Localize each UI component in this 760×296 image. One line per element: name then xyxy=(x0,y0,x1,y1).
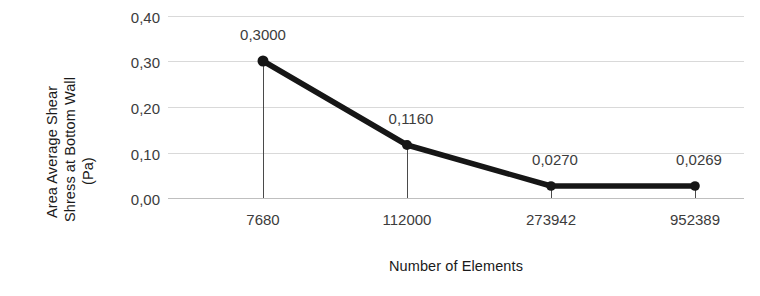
data-label-1: 0,3000 xyxy=(240,27,286,42)
data-label-4: 0,0269 xyxy=(676,152,722,167)
y-tick-label-000: 0,00 xyxy=(108,192,160,207)
y-tick-label-040: 0,40 xyxy=(108,10,160,25)
y-tick-label-010: 0,10 xyxy=(108,147,160,162)
y-axis-title-line-3: (Pa) xyxy=(80,157,96,185)
data-point-marker-1 xyxy=(258,56,269,67)
y-axis-title-line-1: Area Average Shear xyxy=(44,86,60,218)
data-point-marker-3 xyxy=(546,181,556,191)
y-axis-tick-labels: 0,40 0,30 0,20 0,10 0,00 xyxy=(104,0,160,230)
y-tick-label-020: 0,20 xyxy=(108,101,160,116)
x-tick-label-2: 112000 xyxy=(383,212,432,227)
data-point-marker-4 xyxy=(690,181,700,191)
chart-figure: Area Average Shear Shress at Bottom Wall… xyxy=(0,0,760,296)
data-point-marker-2 xyxy=(402,140,412,150)
data-label-3: 0,0270 xyxy=(532,152,578,167)
x-tick-label-1: 7680 xyxy=(246,212,279,227)
x-tick-label-4: 952389 xyxy=(670,212,720,227)
y-tick-label-030: 0,30 xyxy=(108,55,160,70)
data-series-line xyxy=(168,16,744,199)
data-label-2: 0,1160 xyxy=(389,111,434,126)
x-axis-title: Number of Elements xyxy=(168,258,744,274)
x-axis-tick-labels: 7680 112000 273942 952389 xyxy=(168,212,744,242)
y-axis-title-line-2: Shress at Bottom Wall xyxy=(62,77,78,222)
x-tick-label-3: 273942 xyxy=(526,212,576,227)
plot-area: 0,3000 0,1160 0,0270 0,0269 xyxy=(168,16,744,199)
y-axis-title: Area Average Shear Shress at Bottom Wall… xyxy=(14,0,100,230)
